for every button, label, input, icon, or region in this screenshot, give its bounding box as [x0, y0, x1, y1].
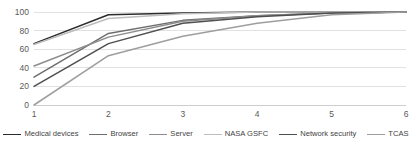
- series-line: [34, 12, 406, 105]
- legend-label: Medical devices: [24, 130, 78, 138]
- line-chart: 020406080100 123456 Medical devicesBrows…: [0, 0, 412, 145]
- legend-item[interactable]: Network security: [279, 130, 356, 138]
- x-tick-label: 1: [32, 109, 37, 119]
- series-lines: [34, 12, 406, 105]
- y-tick-label: 60: [20, 44, 30, 54]
- legend-label: NASA GSFC: [225, 130, 268, 138]
- legend-item[interactable]: Medical devices: [3, 130, 78, 138]
- legend-swatch-icon: [149, 134, 167, 135]
- x-tick-label: 4: [255, 109, 260, 119]
- legend-swatch-icon: [204, 134, 222, 135]
- legend-swatch-icon: [89, 134, 107, 135]
- legend-swatch-icon: [3, 134, 21, 135]
- legend-label: Browser: [110, 130, 138, 138]
- legend-label: Server: [170, 130, 192, 138]
- series-line: [34, 12, 406, 44]
- legend-swatch-icon: [279, 134, 297, 135]
- chart-legend: Medical devicesBrowserServerNASA GSFCNet…: [0, 124, 412, 144]
- series-line: [34, 12, 406, 45]
- legend-item[interactable]: NASA GSFC: [204, 130, 268, 138]
- y-tick-label: 40: [20, 63, 30, 73]
- legend-swatch-icon: [367, 134, 385, 135]
- x-tick-label: 6: [404, 109, 409, 119]
- legend-label: TCAS: [388, 130, 408, 138]
- y-tick-label: 100: [15, 7, 29, 17]
- legend-item[interactable]: Server: [149, 130, 192, 138]
- y-tick-label: 0: [24, 100, 29, 110]
- x-tick-label: 5: [329, 109, 334, 119]
- plot-area: 020406080100 123456: [0, 0, 412, 122]
- y-tick-label: 20: [20, 81, 30, 91]
- x-tick-label: 3: [180, 109, 185, 119]
- legend-item[interactable]: Browser: [89, 130, 138, 138]
- legend-item[interactable]: TCAS: [367, 130, 408, 138]
- gridlines: [34, 12, 406, 105]
- x-tick-label: 2: [106, 109, 111, 119]
- x-axis-tick-labels: 123456: [32, 109, 409, 119]
- y-tick-label: 80: [20, 26, 30, 36]
- legend-label: Network security: [300, 130, 356, 138]
- y-axis-tick-labels: 020406080100: [15, 7, 29, 110]
